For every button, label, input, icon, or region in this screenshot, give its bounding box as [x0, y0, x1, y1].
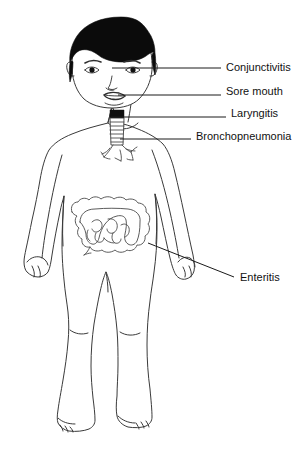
label-laryngitis: Laryngitis	[231, 108, 278, 119]
label-layer: Conjunctivitis Sore mouth Laryngitis Bro…	[0, 0, 302, 453]
label-bronchopneumonia: Bronchopneumonia	[196, 131, 291, 142]
label-enteritis: Enteritis	[240, 272, 280, 283]
label-conjunctivitis: Conjunctivitis	[226, 62, 291, 73]
label-sore-mouth: Sore mouth	[226, 86, 283, 97]
medical-illustration-figure: Conjunctivitis Sore mouth Laryngitis Bro…	[0, 0, 302, 453]
